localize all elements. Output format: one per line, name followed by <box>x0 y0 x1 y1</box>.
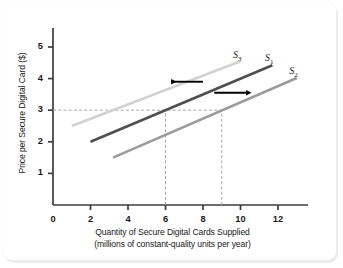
x-tick-label-12: 12 <box>270 214 286 224</box>
y-tick-label-2: 2 <box>29 136 43 146</box>
y-tick-label-5: 5 <box>29 41 43 51</box>
x-tick-label-6: 6 <box>158 214 174 224</box>
curve-label-S2: S2 <box>289 65 298 79</box>
x-tick-label-10: 10 <box>233 214 249 224</box>
x-tick-label-2: 2 <box>83 214 99 224</box>
x-axis-title: Quantity of Secure Digital Cards Supplie… <box>40 227 305 250</box>
x-tick-label-0: 0 <box>45 214 61 224</box>
y-tick-label-4: 4 <box>29 73 43 83</box>
curve-label-subscript: 2 <box>294 71 298 79</box>
y-axis-title: Price per Secure Digital Card ($) <box>17 43 27 183</box>
x-tick-label-4: 4 <box>120 214 136 224</box>
curve-label-subscript: 3 <box>238 55 242 63</box>
supply-curves <box>72 61 297 157</box>
curve-label-S1: S1 <box>265 52 274 66</box>
x-tick-label-8: 8 <box>195 214 211 224</box>
x-axis-title-line2: (millions of constant-quality units per … <box>40 239 305 251</box>
y-tick-label-3: 3 <box>29 104 43 114</box>
curve-label-S3: S3 <box>233 49 242 63</box>
curve-S2 <box>113 78 297 158</box>
curve-S1 <box>91 65 273 141</box>
y-tick-label-1: 1 <box>29 167 43 177</box>
curve-label-subscript: 1 <box>270 58 274 66</box>
x-axis-title-line1: Quantity of Secure Digital Cards Supplie… <box>40 227 305 239</box>
